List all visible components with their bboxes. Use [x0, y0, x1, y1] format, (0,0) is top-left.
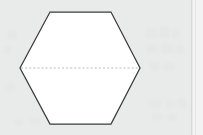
- right-panel-inner-line: [195, 0, 196, 135]
- screenshot-root: [0, 0, 203, 135]
- hexagon-figure: [0, 0, 203, 135]
- vertical-divider: [191, 0, 192, 135]
